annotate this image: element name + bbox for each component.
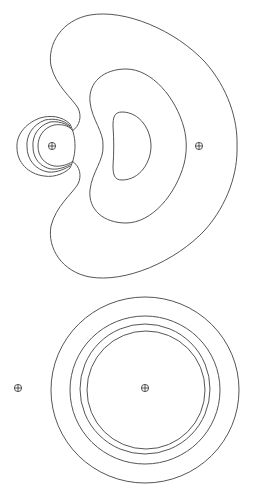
left-circle-group [17,116,75,176]
nucleus-marker-lower-left [14,384,21,391]
lower-ring-4 [87,331,205,449]
lower-contour-system [14,297,239,483]
nucleus-marker-upper-right [195,142,202,149]
left-circle-closure [70,124,75,168]
nucleus-marker-lower-center [141,384,148,391]
outer-crescent-contour [50,14,237,278]
left-circle-4 [38,125,72,167]
inner-d-contour [113,112,151,180]
nucleus-marker-upper-left [48,142,55,149]
contour-diagram [0,0,256,501]
upper-contour-system [17,14,237,278]
middle-crescent-contour [90,69,186,223]
